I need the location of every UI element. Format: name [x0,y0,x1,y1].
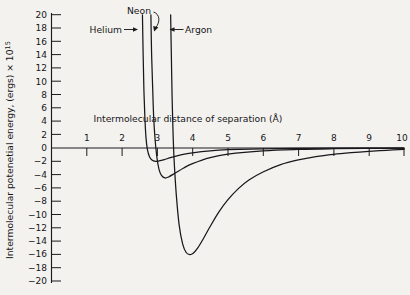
x-tick-label: 4 [190,133,196,143]
y-tick-label: −16 [28,249,47,259]
x-tick-label: 5 [225,133,231,143]
y-tick-label: −20 [28,276,47,286]
y-tick-label: 0 [41,143,47,153]
y-tick-label: 6 [41,103,47,113]
y-axis-title: Intermolecular potenetial energy, (ergs)… [4,41,16,259]
x-axis-title: Intermolecular distance of separation (Å… [94,113,283,124]
y-axis-title-exponent: 15 [4,41,12,49]
y-tick-label: 4 [41,116,47,126]
y-tick-label: 20 [36,10,48,20]
y-tick-label: −12 [28,223,47,233]
x-tick-label: 1 [84,133,90,143]
y-tick-label: 8 [41,90,47,100]
neon-label: Neon [127,5,151,16]
x-tick-label: 7 [296,133,302,143]
x-tick-label: 8 [331,133,337,143]
x-tick-label: 9 [366,133,372,143]
y-tick-label: −18 [28,263,47,273]
intermolecular-potential-chart: 20 18 16 14 12 10 8 6 4 2 0 −2 −4 −6 −8 … [0,0,410,295]
y-tick-label: −4 [34,170,48,180]
y-tick-label: −14 [28,236,47,246]
x-tick-label: 6 [260,133,266,143]
y-tick-label: 2 [41,130,47,140]
y-axis-title-text: Intermolecular potenetial energy, (ergs)… [4,49,15,259]
x-tick-label: 10 [396,133,408,143]
x-tick-label: 2 [119,133,125,143]
y-tick-label: −8 [34,196,48,206]
y-tick-label: 12 [36,63,47,73]
y-tick-label: −6 [34,183,48,193]
y-tick-label: 16 [36,37,48,47]
helium-label: Helium [90,24,122,35]
y-tick-label: −2 [34,156,47,166]
y-tick-label: −10 [28,210,47,220]
y-tick-label: 18 [36,23,48,33]
argon-label: Argon [185,24,212,35]
y-tick-label: 10 [36,77,48,87]
y-tick-label: 14 [36,50,48,60]
y-axis-title-group: Intermolecular potenetial energy, (ergs)… [4,41,16,259]
